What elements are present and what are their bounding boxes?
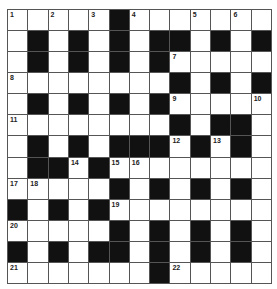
answer-cell[interactable]	[89, 263, 108, 283]
answer-cell[interactable]	[211, 221, 230, 241]
answer-cell[interactable]	[231, 73, 250, 93]
answer-cell[interactable]	[49, 115, 68, 135]
answer-cell[interactable]	[89, 31, 108, 51]
answer-cell[interactable]	[211, 242, 230, 262]
answer-cell[interactable]	[231, 158, 250, 178]
answer-cell[interactable]	[110, 115, 129, 135]
answer-cell[interactable]	[8, 52, 27, 72]
answer-cell[interactable]	[8, 94, 27, 114]
answer-cell[interactable]	[49, 52, 68, 72]
answer-cell[interactable]	[252, 242, 271, 262]
answer-cell[interactable]: 9	[170, 94, 189, 114]
answer-cell[interactable]	[89, 136, 108, 156]
answer-cell[interactable]	[191, 31, 210, 51]
answer-cell[interactable]	[252, 221, 271, 241]
answer-cell[interactable]	[49, 73, 68, 93]
answer-cell[interactable]	[130, 263, 149, 283]
answer-cell[interactable]	[231, 200, 250, 220]
answer-cell[interactable]	[191, 73, 210, 93]
answer-cell[interactable]: 15	[110, 158, 129, 178]
answer-cell[interactable]: 8	[8, 73, 27, 93]
answer-cell[interactable]	[69, 179, 88, 199]
answer-cell[interactable]	[130, 31, 149, 51]
answer-cell[interactable]	[211, 263, 230, 283]
answer-cell[interactable]	[170, 242, 189, 262]
answer-cell[interactable]	[69, 242, 88, 262]
answer-cell[interactable]	[130, 115, 149, 135]
answer-cell[interactable]	[150, 115, 169, 135]
answer-cell[interactable]	[252, 52, 271, 72]
answer-cell[interactable]	[231, 263, 250, 283]
answer-cell[interactable]	[130, 221, 149, 241]
answer-cell[interactable]	[69, 200, 88, 220]
answer-cell[interactable]	[170, 10, 189, 30]
answer-cell[interactable]	[191, 200, 210, 220]
answer-cell[interactable]: 7	[170, 52, 189, 72]
answer-cell[interactable]	[130, 200, 149, 220]
answer-cell[interactable]	[211, 200, 230, 220]
answer-cell[interactable]	[252, 115, 271, 135]
answer-cell[interactable]	[170, 200, 189, 220]
answer-cell[interactable]: 19	[110, 200, 129, 220]
answer-cell[interactable]	[28, 115, 47, 135]
answer-cell[interactable]	[252, 136, 271, 156]
answer-cell[interactable]	[130, 73, 149, 93]
answer-cell[interactable]	[89, 73, 108, 93]
answer-cell[interactable]	[211, 10, 230, 30]
answer-cell[interactable]	[231, 52, 250, 72]
answer-cell[interactable]	[252, 179, 271, 199]
answer-cell[interactable]: 18	[28, 179, 47, 199]
answer-cell[interactable]: 4	[130, 10, 149, 30]
answer-cell[interactable]	[191, 115, 210, 135]
answer-cell[interactable]: 16	[130, 158, 149, 178]
answer-cell[interactable]	[130, 52, 149, 72]
answer-cell[interactable]	[69, 73, 88, 93]
answer-cell[interactable]	[28, 73, 47, 93]
answer-cell[interactable]	[28, 200, 47, 220]
answer-cell[interactable]	[28, 221, 47, 241]
answer-cell[interactable]: 2	[49, 10, 68, 30]
answer-cell[interactable]	[252, 200, 271, 220]
answer-cell[interactable]	[69, 115, 88, 135]
answer-cell[interactable]	[170, 179, 189, 199]
answer-cell[interactable]	[89, 52, 108, 72]
answer-cell[interactable]: 13	[211, 136, 230, 156]
answer-cell[interactable]	[231, 94, 250, 114]
answer-cell[interactable]: 5	[191, 10, 210, 30]
answer-cell[interactable]	[191, 158, 210, 178]
answer-cell[interactable]: 3	[89, 10, 108, 30]
answer-cell[interactable]: 12	[170, 136, 189, 156]
answer-cell[interactable]	[28, 10, 47, 30]
answer-cell[interactable]	[211, 158, 230, 178]
answer-cell[interactable]	[8, 136, 27, 156]
answer-cell[interactable]	[49, 94, 68, 114]
answer-cell[interactable]	[49, 179, 68, 199]
answer-cell[interactable]	[49, 31, 68, 51]
answer-cell[interactable]	[170, 221, 189, 241]
answer-cell[interactable]	[110, 73, 129, 93]
answer-cell[interactable]: 21	[8, 263, 27, 283]
answer-cell[interactable]: 20	[8, 221, 27, 241]
answer-cell[interactable]	[69, 263, 88, 283]
answer-cell[interactable]	[49, 263, 68, 283]
answer-cell[interactable]	[130, 242, 149, 262]
answer-cell[interactable]	[8, 31, 27, 51]
answer-cell[interactable]	[191, 52, 210, 72]
answer-cell[interactable]: 10	[252, 94, 271, 114]
answer-cell[interactable]	[69, 10, 88, 30]
answer-cell[interactable]	[211, 52, 230, 72]
answer-cell[interactable]	[150, 73, 169, 93]
answer-cell[interactable]	[211, 179, 230, 199]
answer-cell[interactable]	[130, 94, 149, 114]
answer-cell[interactable]	[89, 221, 108, 241]
answer-cell[interactable]	[89, 179, 108, 199]
answer-cell[interactable]: 1	[8, 10, 27, 30]
answer-cell[interactable]	[231, 31, 250, 51]
answer-cell[interactable]	[69, 221, 88, 241]
answer-cell[interactable]	[191, 263, 210, 283]
answer-cell[interactable]	[150, 158, 169, 178]
answer-cell[interactable]: 11	[8, 115, 27, 135]
answer-cell[interactable]	[252, 10, 271, 30]
answer-cell[interactable]	[28, 242, 47, 262]
answer-cell[interactable]	[89, 94, 108, 114]
